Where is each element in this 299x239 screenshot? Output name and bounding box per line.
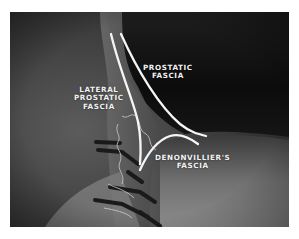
label-line: FASCIA bbox=[155, 162, 230, 170]
vignette bbox=[10, 12, 289, 227]
label-denonvilliers-fascia: DENONVILLIER'S FASCIA bbox=[155, 154, 230, 171]
anatomy-illustration: PROSTATIC FASCIA LATERAL PROSTATIC FASCI… bbox=[10, 12, 289, 227]
label-prostatic-fascia: PROSTATIC FASCIA bbox=[143, 64, 193, 81]
anatomy-artwork bbox=[10, 12, 289, 227]
label-line: FASCIA bbox=[143, 72, 193, 80]
label-line: FASCIA bbox=[74, 103, 124, 111]
label-lateral-prostatic-fascia: LATERAL PROSTATIC FASCIA bbox=[74, 86, 124, 111]
